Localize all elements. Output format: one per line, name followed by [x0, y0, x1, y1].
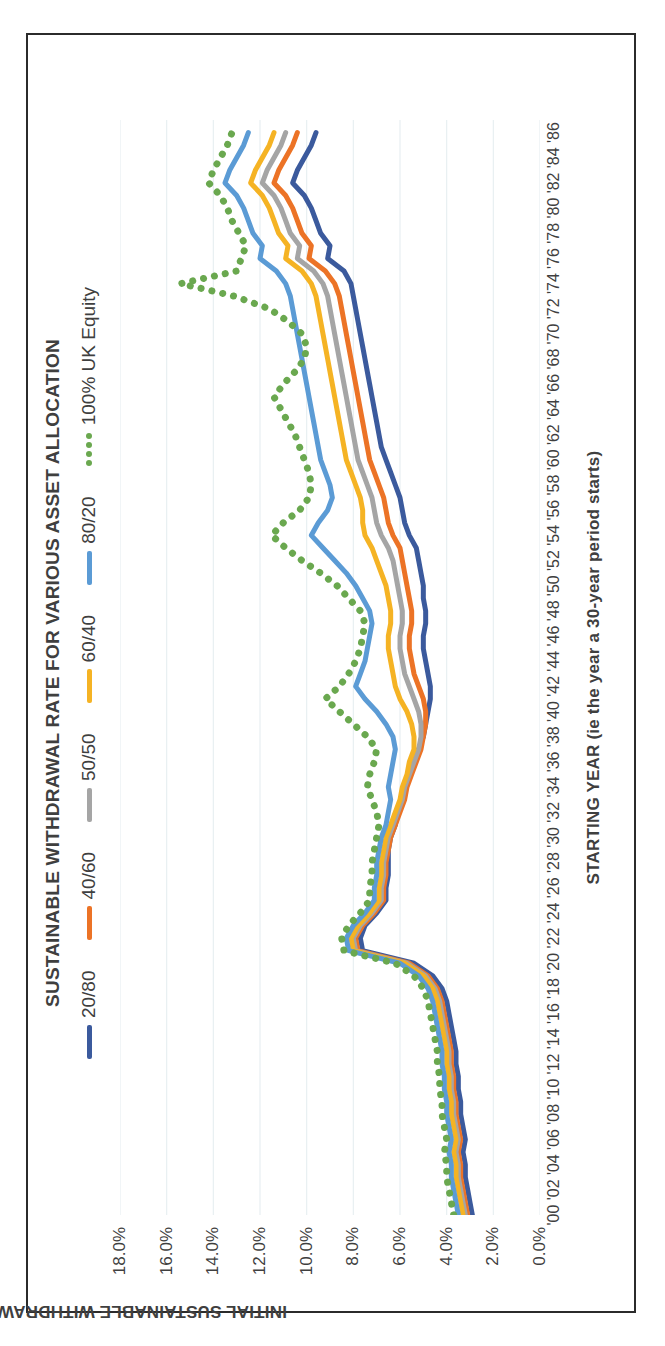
- legend-swatch: [87, 551, 92, 585]
- y-tick-label: 10.0%: [297, 1227, 317, 1275]
- y-tick-label: 14.0%: [203, 1227, 223, 1275]
- y-tick-label: 8.0%: [343, 1227, 363, 1266]
- y-tick-label: 0.0%: [530, 1227, 550, 1266]
- x-tick-label: '12: [545, 1054, 563, 1075]
- chart-title: SUSTAINABLE WITHDRAWAL RATE FOR VARIOUS …: [42, 35, 64, 1311]
- x-tick-label: '28: [545, 852, 563, 873]
- x-tick-label: '22: [545, 928, 563, 949]
- x-tick-label: '06: [545, 1129, 563, 1150]
- legend-item-20-80[interactable]: 20/80: [78, 971, 100, 1060]
- plot-area: [120, 120, 540, 1215]
- chart: SUSTAINABLE WITHDRAWAL RATE FOR VARIOUS …: [28, 35, 634, 1311]
- legend-swatch: [86, 432, 93, 466]
- x-tick-label: '46: [545, 626, 563, 647]
- series-line: [251, 133, 463, 1215]
- x-tick-label: '14: [545, 1028, 563, 1049]
- plot-svg: [120, 120, 540, 1215]
- x-tick-label: '38: [545, 726, 563, 747]
- x-tick-label: '34: [545, 777, 563, 798]
- legend-label: 100% UK Equity: [78, 287, 100, 425]
- x-tick-label: '72: [545, 298, 563, 319]
- legend-label: 50/50: [78, 733, 100, 781]
- x-tick-label: '68: [545, 349, 563, 370]
- x-tick-label: '48: [545, 600, 563, 621]
- x-tick-label: '66: [545, 374, 563, 395]
- x-tick-label: '40: [545, 701, 563, 722]
- x-tick-label: '20: [545, 953, 563, 974]
- x-tick-label: '18: [545, 978, 563, 999]
- y-tick-label: 12.0%: [250, 1227, 270, 1275]
- x-tick-label: '24: [545, 903, 563, 924]
- y-axis-tick-labels: 0.0%2.0%4.0%6.0%8.0%10.0%12.0%14.0%16.0%…: [120, 1219, 540, 1311]
- legend-label: 60/40: [78, 615, 100, 663]
- legend-swatch: [87, 788, 92, 822]
- y-tick-label: 4.0%: [437, 1227, 457, 1266]
- legend-item-100-uk-equity[interactable]: 100% UK Equity: [78, 287, 100, 466]
- x-tick-label: '50: [545, 575, 563, 596]
- y-tick-label: 16.0%: [157, 1227, 177, 1275]
- x-tick-label: '74: [545, 273, 563, 294]
- x-tick-label: '86: [545, 122, 563, 143]
- legend-swatch: [87, 669, 92, 703]
- x-tick-label: '02: [545, 1179, 563, 1200]
- x-tick-label: '56: [545, 500, 563, 521]
- y-tick-label: 6.0%: [390, 1227, 410, 1266]
- x-tick-label: '00: [545, 1205, 563, 1226]
- x-tick-label: '36: [545, 751, 563, 772]
- x-tick-label: '70: [545, 324, 563, 345]
- x-tick-label: '82: [545, 173, 563, 194]
- legend-item-80-20[interactable]: 80/20: [78, 496, 100, 585]
- y-tick-label: 2.0%: [483, 1227, 503, 1266]
- x-tick-label: '58: [545, 475, 563, 496]
- legend-item-60-40[interactable]: 60/40: [78, 615, 100, 704]
- x-axis-title: STARTING YEAR (ie the year a 30-year per…: [584, 120, 604, 1215]
- x-tick-label: '76: [545, 248, 563, 269]
- chart-frame: SUSTAINABLE WITHDRAWAL RATE FOR VARIOUS …: [26, 33, 636, 1313]
- x-tick-label: '08: [545, 1104, 563, 1125]
- x-tick-label: '52: [545, 550, 563, 571]
- legend-label: 80/20: [78, 496, 100, 544]
- legend-swatch: [87, 1025, 92, 1059]
- x-tick-label: '62: [545, 424, 563, 445]
- rotated-chart-container: SUSTAINABLE WITHDRAWAL RATE FOR VARIOUS …: [28, 35, 634, 1311]
- x-tick-label: '42: [545, 676, 563, 697]
- legend-label: 20/80: [78, 971, 100, 1019]
- legend-swatch: [87, 907, 92, 941]
- x-tick-label: '26: [545, 877, 563, 898]
- y-tick-label: 18.0%: [110, 1227, 130, 1275]
- x-tick-label: '78: [545, 223, 563, 244]
- legend-item-40-60[interactable]: 40/60: [78, 852, 100, 941]
- x-tick-label: '64: [545, 399, 563, 420]
- x-tick-label: '04: [545, 1154, 563, 1175]
- x-tick-label: '84: [545, 147, 563, 168]
- legend-label: 40/60: [78, 852, 100, 900]
- x-tick-label: '30: [545, 827, 563, 848]
- x-tick-label: '16: [545, 1003, 563, 1024]
- x-tick-label: '60: [545, 449, 563, 470]
- x-tick-label: '80: [545, 198, 563, 219]
- chart-legend: 20/8040/6050/5060/4080/20100% UK Equity: [78, 35, 100, 1311]
- x-axis-tick-labels: '00'02'04'06'08'10'12'14'16'18'20'22'24'…: [543, 120, 583, 1215]
- x-tick-label: '44: [545, 651, 563, 672]
- x-tick-label: '54: [545, 525, 563, 546]
- legend-item-50-50[interactable]: 50/50: [78, 733, 100, 822]
- x-tick-label: '32: [545, 802, 563, 823]
- x-tick-label: '10: [545, 1079, 563, 1100]
